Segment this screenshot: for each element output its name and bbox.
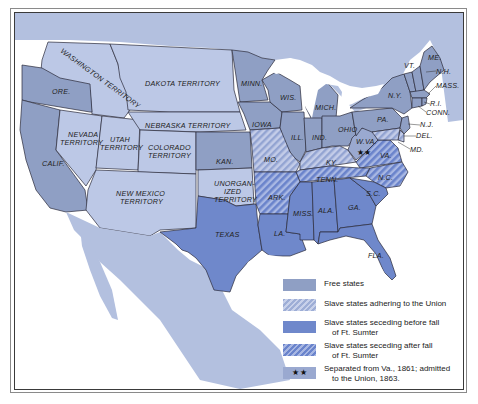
label-maryland: MD.: [410, 145, 424, 154]
west-virginia-stars-icon: ★★: [357, 148, 371, 157]
label-arkansas: ARK.: [267, 193, 286, 202]
legend-item-adhering: Slave states adhering to the Union: [283, 299, 464, 311]
label-florida: FLA.: [368, 251, 384, 260]
label-mississippi: MISS.: [293, 209, 314, 218]
legend-label-before-2: of Ft. Sumter: [324, 328, 464, 338]
label-indiana: IND.: [312, 133, 327, 142]
legend-swatch-adhering: [283, 299, 316, 311]
label-nevada-2: TERRITORY: [60, 138, 104, 147]
label-pennsylvania: PA.: [377, 115, 389, 124]
label-vermont: VT.: [404, 61, 415, 70]
label-north-carolina: N.C.: [378, 173, 393, 182]
label-unorganized-3: TERRITORY: [214, 195, 258, 204]
legend-label-adhering: Slave states adhering to the Union: [324, 299, 446, 308]
legend-label-free: Free states: [324, 279, 364, 288]
label-minnesota: MINN.: [241, 79, 262, 88]
legend-item-after: Slave states seceding after fall of Ft. …: [283, 341, 464, 361]
label-virginia: VA.: [380, 151, 392, 160]
label-alabama: ALA.: [317, 206, 334, 215]
legend-item-free: Free states: [283, 279, 464, 291]
label-california: CALIF.: [42, 159, 65, 168]
label-illinois: ILL.: [291, 133, 304, 142]
legend-label-stars-1: Separated from Va., 1861; admitted: [324, 364, 450, 373]
label-new-hampshire: N.H.: [436, 67, 451, 76]
label-colorado-2: TERRITORY: [148, 151, 192, 160]
legend-swatch-free: [283, 279, 316, 291]
label-missouri: MO.: [264, 155, 278, 164]
label-connecticut: CONN.: [426, 108, 450, 117]
label-west-virginia: W.VA.: [356, 137, 377, 146]
legend-swatch-before: [283, 321, 316, 333]
label-delaware: DEL.: [416, 131, 433, 140]
legend-label-after-1: Slave states seceding after fall: [324, 341, 433, 350]
label-new-mexico-2: TERRITORY: [120, 197, 164, 206]
legend-item-stars: ★★ Separated from Va., 1861; admitted to…: [283, 364, 464, 384]
label-new-york: N.Y.: [388, 91, 402, 100]
label-georgia: GA.: [348, 203, 361, 212]
label-louisiana: LA.: [274, 229, 285, 238]
legend-item-before: Slave states seceding before fall of Ft.…: [283, 318, 464, 338]
label-utah-2: TERRITORY: [100, 143, 144, 152]
legend-swatch-after: [283, 344, 316, 356]
label-maine: ME.: [428, 53, 441, 62]
label-texas: TEXAS: [215, 230, 240, 239]
label-oregon: ORE.: [52, 87, 70, 96]
connecticut: [412, 98, 422, 108]
label-kentucky: KY.: [326, 158, 338, 167]
legend-label-before-1: Slave states seceding before fall: [324, 318, 439, 327]
label-wisconsin: WIS.: [280, 93, 296, 102]
label-kansas: KAN.: [216, 157, 234, 166]
label-massachusetts: MASS.: [436, 81, 459, 90]
label-nebraska-territory: NEBRASKA TERRITORY: [145, 121, 232, 130]
label-south-carolina: S.C.: [366, 189, 381, 198]
label-tennessee: TENN.: [316, 175, 339, 184]
label-ohio: OHIO: [338, 125, 357, 134]
label-new-jersey: N.J.: [420, 120, 434, 129]
legend-label-after-2: of Ft. Sumter: [324, 351, 464, 361]
legend-label-stars-2: to the Union, 1863.: [324, 374, 464, 384]
legend-swatch-stars-icon: ★★: [283, 367, 316, 379]
label-rhode-island: R.I.: [430, 99, 442, 108]
label-dakota-territory: DAKOTA TERRITORY: [145, 79, 221, 88]
label-iowa: IOWA: [252, 120, 272, 129]
label-michigan: MICH.: [315, 103, 336, 112]
